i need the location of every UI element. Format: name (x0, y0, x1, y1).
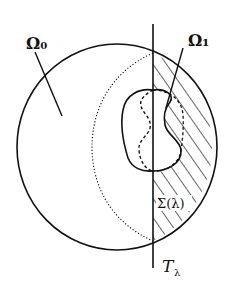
label-t-lambda-subscript: λ (174, 267, 181, 278)
diagram-canvas: Ω₀ Ω₁ Σ(λ) T λ (0, 0, 237, 289)
label-omega0: Ω₀ (26, 34, 47, 53)
label-omega1: Ω₁ (188, 31, 209, 50)
label-sigma: Σ(λ) (157, 196, 185, 211)
omega0-leader (35, 52, 62, 116)
